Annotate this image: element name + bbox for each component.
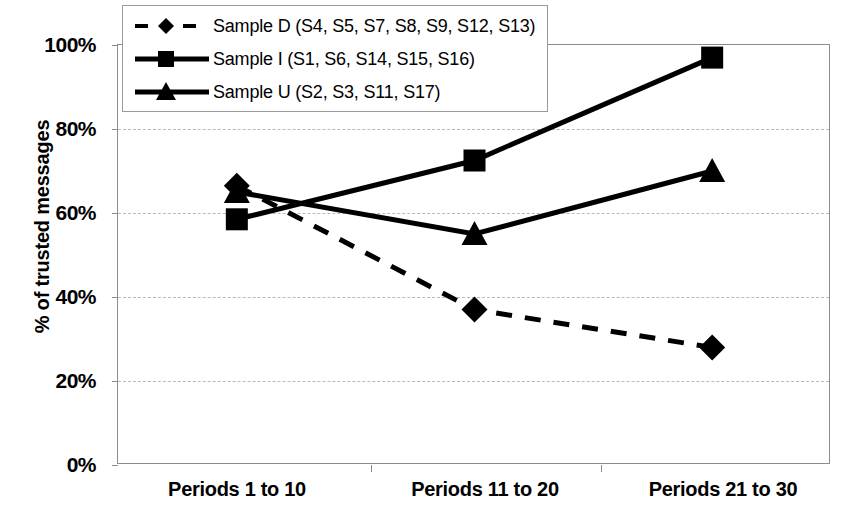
y-axis-tick-labels: 100% 80% 60% 40% 20% 0% — [0, 0, 96, 510]
y-tick-label: 100% — [4, 34, 96, 55]
legend-label: Sample U (S2, S3, S11, S17) — [213, 82, 440, 103]
x-axis-tick-labels: Periods 1 to 10 Periods 11 to 20 Periods… — [117, 478, 830, 510]
chart-legend: Sample D (S4, S5, S7, S8, S9, S12, S13) … — [122, 5, 548, 112]
marker-square — [701, 47, 723, 69]
marker-square — [464, 150, 486, 172]
x-tick-label: Periods 11 to 20 — [411, 478, 559, 501]
legend-key-triangle-icon — [131, 77, 213, 107]
legend-label: Sample I (S1, S6, S14, S15, S16) — [213, 49, 475, 70]
legend-item-sample-i: Sample I (S1, S6, S14, S15, S16) — [123, 43, 547, 75]
y-tick-label: 20% — [4, 370, 96, 391]
legend-item-sample-u: Sample U (S2, S3, S11, S17) — [123, 76, 547, 108]
y-tick-mark — [112, 465, 118, 466]
y-tick-label: 40% — [4, 286, 96, 307]
legend-item-sample-d: Sample D (S4, S5, S7, S8, S9, S12, S13) — [123, 10, 547, 42]
y-tick-label: 80% — [4, 118, 96, 139]
series-line-diamond — [237, 186, 712, 348]
legend-key-diamond-icon — [131, 11, 213, 41]
x-axis-divider — [601, 465, 602, 472]
y-tick-label: 0% — [4, 454, 96, 475]
legend-key-square-icon — [131, 44, 213, 74]
x-tick-label: Periods 21 to 30 — [649, 478, 798, 501]
marker-diamond — [699, 334, 725, 360]
marker-triangle — [699, 158, 725, 182]
marker-square — [226, 208, 248, 230]
legend-label: Sample D (S4, S5, S7, S8, S9, S12, S13) — [213, 16, 535, 37]
x-tick-label: Periods 1 to 10 — [168, 478, 306, 501]
line-chart: % of trusted messages 100% 80% 60% 40% 2… — [0, 0, 851, 510]
y-tick-label: 60% — [4, 202, 96, 223]
x-axis-divider — [371, 465, 372, 472]
marker-diamond — [462, 297, 488, 323]
